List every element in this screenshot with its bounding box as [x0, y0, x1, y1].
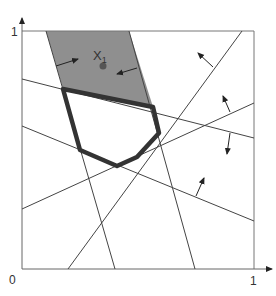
x-tick-label-1: 1 [250, 274, 257, 288]
arrow-icon [198, 53, 213, 67]
arrow-icon [196, 178, 204, 196]
y-tick-label-1: 1 [11, 25, 18, 39]
constraint-line-2 [129, 31, 195, 269]
arrow-icon [223, 96, 230, 112]
constraint-line-5 [22, 126, 254, 221]
diagram-canvas: X1 1 0 1 [0, 0, 276, 296]
arrow-icon [227, 133, 230, 154]
origin-label: 0 [9, 273, 16, 287]
